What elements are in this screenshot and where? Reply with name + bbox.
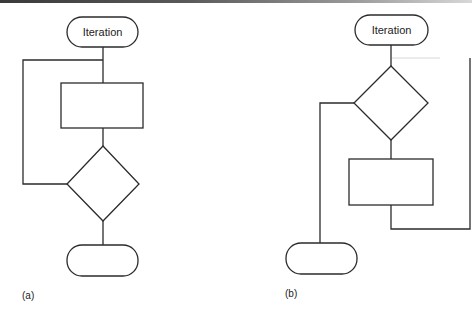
panel-a-start-label: Iteration xyxy=(83,26,123,38)
panel-b-start-label: Iteration xyxy=(372,24,412,36)
panel-b-end-terminal xyxy=(286,243,357,274)
panel-b: Iteration (b) xyxy=(285,15,470,299)
panel-b-decision-diamond xyxy=(354,66,428,140)
panel-a-decision-diamond xyxy=(67,146,139,221)
panel-a-process-box xyxy=(61,83,143,128)
flowchart-figure: Iteration (a) Iteration (b) xyxy=(0,0,472,313)
panel-a-end-terminal xyxy=(67,245,138,276)
panel-b-process-box xyxy=(349,159,433,205)
panel-b-caption: (b) xyxy=(285,288,297,299)
panel-a: Iteration (a) xyxy=(22,17,143,301)
panel-a-caption: (a) xyxy=(22,290,34,301)
